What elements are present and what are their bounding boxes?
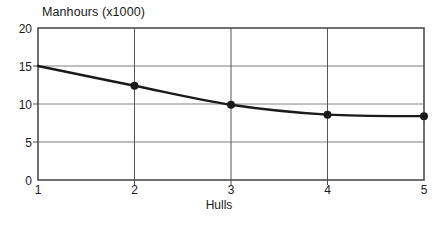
ytick-label-20: 20: [2, 22, 32, 36]
ytick-label-10: 10: [2, 98, 32, 112]
chart-container: Manhours (x1000): [0, 0, 438, 226]
xtick-label-3: 3: [216, 183, 246, 197]
x-axis-label: Hulls: [0, 198, 438, 212]
ytick-label-15: 15: [2, 60, 32, 74]
data-point-marker: [324, 111, 332, 119]
data-point-marker: [227, 101, 235, 109]
xtick-label-1: 1: [23, 183, 53, 197]
data-point-marker: [131, 82, 139, 90]
ytick-label-5: 5: [2, 136, 32, 150]
xtick-label-5: 5: [409, 183, 438, 197]
xtick-label-2: 2: [120, 183, 150, 197]
data-point-marker: [420, 112, 428, 120]
xtick-label-4: 4: [313, 183, 343, 197]
